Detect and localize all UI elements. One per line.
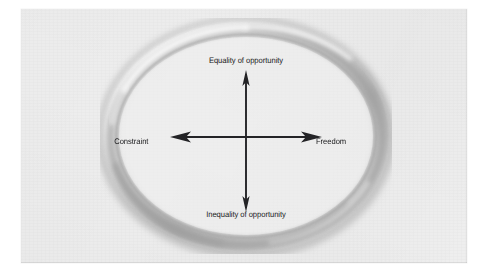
panel-bottom-edge xyxy=(21,262,467,263)
axis-cross-graphic xyxy=(21,9,467,263)
paper-texture-overlay xyxy=(21,9,467,263)
axis-label-left: Constraint xyxy=(114,137,148,147)
axis-label-top: Equality of opportunity xyxy=(209,56,283,66)
arrowhead-left xyxy=(170,132,191,143)
axis-label-bottom: Inequality of opportunity xyxy=(206,210,286,220)
axis-label-right: Freedom xyxy=(316,137,346,147)
panel-right-edge xyxy=(466,9,467,263)
figure-panel: Equality of opportunity Inequality of op… xyxy=(21,9,467,263)
scanned-figure-page: Equality of opportunity Inequality of op… xyxy=(0,0,489,278)
arrowhead-up xyxy=(242,70,249,86)
